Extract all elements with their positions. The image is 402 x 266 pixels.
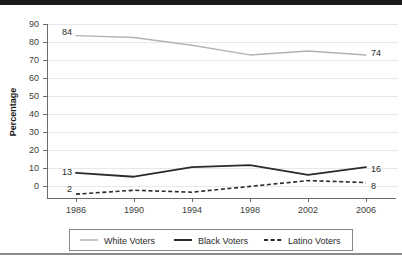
y-tick-labels: 90 80 70 60 50 40 30 20 10 0 [29,19,39,191]
x-tick-label: 2006 [356,205,376,215]
x-tick-label: 2002 [298,205,318,215]
series-line-black-voters [76,165,366,177]
line-chart: 90 80 70 60 50 40 30 20 10 0 1986 1990 1… [0,0,402,266]
x-tick-label: 1994 [182,205,202,215]
gridlines [47,24,398,186]
y-tick-label: 10 [29,163,39,173]
series-lines [76,36,366,195]
y-tick-marks [43,24,47,186]
y-tick-label: 70 [29,55,39,65]
y-axis-title: Percentage [8,88,18,137]
x-tick-label: 1990 [124,205,144,215]
y-tick-label: 30 [29,127,39,137]
y-tick-label: 40 [29,109,39,119]
series-line-white-voters [76,36,366,55]
y-tick-label: 60 [29,73,39,83]
x-tick-marks [76,198,366,202]
y-tick-label: 90 [29,19,39,29]
y-tick-label: 20 [29,145,39,155]
data-label-white-2006: 74 [371,48,381,58]
chart-figure: 90 80 70 60 50 40 30 20 10 0 1986 1990 1… [0,0,402,266]
data-label-black-2006: 16 [371,164,381,174]
x-tick-labels: 1986 1990 1994 1998 2002 2006 [66,205,376,215]
data-label-white-1986: 84 [62,27,72,37]
data-label-latino-1986: 2 [67,184,72,194]
data-label-latino-2006: 8 [371,181,376,191]
y-tick-label: 0 [34,181,39,191]
x-tick-label: 1986 [66,205,86,215]
data-label-black-1986: 13 [62,167,72,177]
series-line-latino-voters [76,181,366,195]
legend-label-latino-voters: Latino Voters [288,236,341,246]
y-tick-label: 80 [29,37,39,47]
y-tick-label: 50 [29,91,39,101]
legend-label-black-voters: Black Voters [198,236,249,246]
x-tick-label: 1998 [240,205,260,215]
chart-legend: White Voters Black Voters Latino Voters [70,230,353,251]
legend-label-white-voters: White Voters [104,236,156,246]
